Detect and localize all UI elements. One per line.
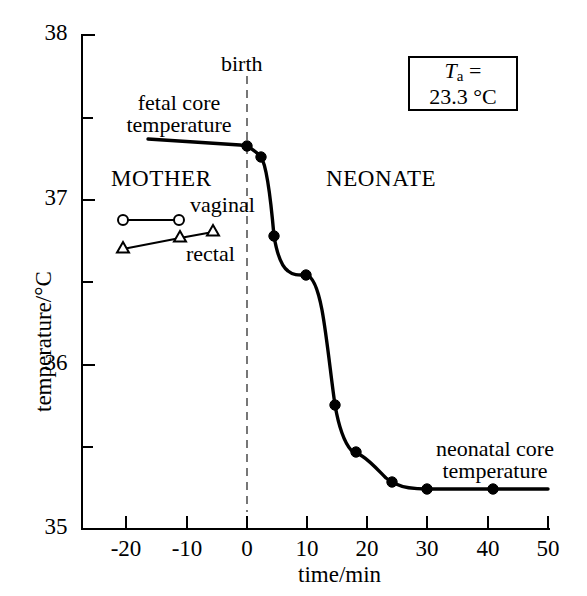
data-point-core [269, 231, 279, 241]
y-tick-label-38: 38 [38, 21, 74, 46]
ambient-symbol: T [445, 58, 457, 83]
birth-label: birth [221, 52, 263, 76]
data-point-rectal [207, 225, 219, 236]
neonatal-core-label-line2: temperature [420, 459, 570, 483]
x-tick-label-0: 0 [217, 537, 277, 562]
ambient-temperature-value: 23.3 °C [429, 84, 496, 110]
fetal-core-label-line2: temperature [105, 113, 253, 137]
data-point-core [301, 270, 311, 280]
x-tick-label-50: 50 [518, 537, 578, 562]
rectal-series-label: rectal [186, 242, 235, 266]
x-tick-label-20: 20 [337, 537, 397, 562]
ambient-temperature-box: Ta = 23.3 °C [408, 56, 518, 111]
data-point-vaginal [118, 215, 128, 225]
mother-region-label: MOTHER [111, 167, 212, 192]
data-point-core [387, 477, 397, 487]
ambient-temperature-symbol-row: Ta = [445, 58, 482, 84]
neonate-region-label: NEONATE [326, 167, 436, 192]
data-point-core [330, 400, 340, 410]
y-tick-label-35: 35 [38, 515, 74, 540]
vaginal-series-label: vaginal [190, 193, 255, 217]
x-tick-label-10: 10 [277, 537, 337, 562]
ambient-subscript: a [457, 68, 464, 84]
data-point-core [256, 152, 266, 162]
data-point-core [351, 447, 361, 457]
x-tick-label-40: 40 [458, 537, 518, 562]
x-axis-title: time/min [298, 563, 381, 588]
data-point-core [242, 141, 252, 151]
data-point-core [422, 484, 432, 494]
x-tick-label-minus20: -20 [96, 537, 156, 562]
x-tick-label-30: 30 [397, 537, 457, 562]
ambient-equals: = [464, 58, 482, 83]
temperature-time-chart: 38 37 36 35 temperature/°C -20 -10 0 10 … [0, 0, 587, 596]
y-tick-label-37: 37 [38, 186, 74, 211]
data-point-core [488, 484, 498, 494]
data-point-vaginal [174, 215, 184, 225]
x-tick-label-minus10: -10 [157, 537, 217, 562]
y-axis-title: temperature/°C [32, 271, 57, 412]
